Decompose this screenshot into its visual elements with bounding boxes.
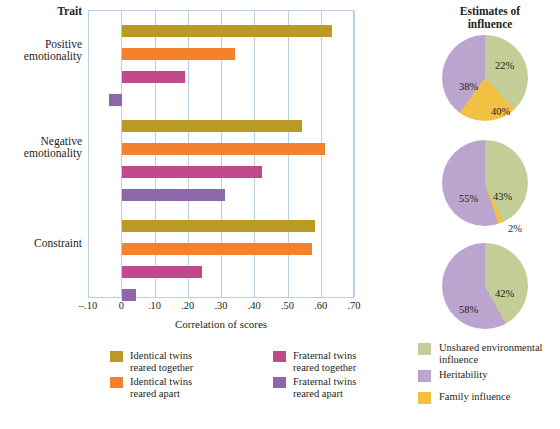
pie-slice-label: 2% xyxy=(508,223,522,234)
trait-label: Negativeemotionality xyxy=(0,135,82,159)
x-axis-title: Correlation of scores xyxy=(88,318,354,330)
pie-slice-label: 42% xyxy=(495,288,514,299)
pie-slice-label: 22% xyxy=(495,60,514,71)
pie-slice-label: 58% xyxy=(459,304,478,315)
trait-label: Constraint xyxy=(0,237,82,249)
legend-label-line2: reared apart xyxy=(293,388,356,400)
bar xyxy=(109,94,122,106)
legend-label-line1: Fraternal twins xyxy=(293,376,356,388)
pie-panel: Estimates of influence 38%22%40%43%2%55%… xyxy=(420,0,560,340)
pie-slice-label: 55% xyxy=(459,193,478,204)
legend-swatch-icon xyxy=(273,377,286,388)
bar-chart: Trait PositiveemotionalityNegativeemotio… xyxy=(0,0,400,340)
bar xyxy=(122,243,312,255)
bar-legend-label: Identical twinsreared apart xyxy=(130,376,192,399)
pie-chart xyxy=(442,243,528,329)
trait-column-header: Trait xyxy=(0,5,82,17)
bar-legend-label: Fraternal twinsreared together xyxy=(293,350,356,373)
pie-title-line1: Estimates of xyxy=(420,5,560,18)
legend-swatch-icon xyxy=(110,377,123,388)
legend-label-line2: influence xyxy=(439,354,543,366)
pie-slice-label: 38% xyxy=(459,81,478,92)
legend-swatch-icon xyxy=(273,351,286,362)
legend-swatch-icon xyxy=(418,343,431,355)
legend-label-line2: reared apart xyxy=(130,388,192,400)
x-tick-label: .70 xyxy=(334,300,374,311)
bar xyxy=(122,48,235,60)
figure-root: Trait PositiveemotionalityNegativeemotio… xyxy=(0,0,560,429)
bar xyxy=(122,166,262,178)
bar xyxy=(122,71,185,83)
legend-label-line1: Family influence xyxy=(439,391,510,403)
legend-label-line1: Unshared environmental xyxy=(439,342,543,354)
legend-label-line1: Identical twins xyxy=(130,350,193,362)
bar-legend-label: Fraternal twinsreared apart xyxy=(293,376,356,399)
pie-legend-item: Family influence xyxy=(418,391,510,404)
trait-label-line2: emotionality xyxy=(0,50,82,62)
legend-swatch-icon xyxy=(110,351,123,362)
pie-legend-label: Family influence xyxy=(439,391,510,403)
pie-legend-item: Unshared environmentalinfluence xyxy=(418,342,543,365)
trait-label-line1: Positive xyxy=(0,38,82,50)
bar xyxy=(122,25,331,37)
bar-legend-item: Fraternal twinsreared together xyxy=(273,350,356,373)
plot-area xyxy=(88,10,354,298)
bar xyxy=(122,220,315,232)
bar xyxy=(122,120,302,132)
legend-label-line1: Fraternal twins xyxy=(293,350,356,362)
pie-chart xyxy=(442,140,528,226)
pie-legend-label: Unshared environmentalinfluence xyxy=(439,342,543,365)
legend-swatch-icon xyxy=(418,370,431,382)
legend-label-line2: reared together xyxy=(293,362,356,374)
trait-label-line1: Negative xyxy=(0,135,82,147)
pie-chart xyxy=(442,35,528,121)
bar xyxy=(122,189,225,201)
bar-legend-item: Identical twinsreared apart xyxy=(110,376,192,399)
pie-panel-title: Estimates of influence xyxy=(420,5,560,31)
bar-legend-item: Fraternal twinsreared apart xyxy=(273,376,356,399)
bar-legend-label: Identical twinsreared together xyxy=(130,350,193,373)
bar xyxy=(122,266,202,278)
pie-slice-label: 43% xyxy=(493,191,512,202)
legend-swatch-icon xyxy=(418,392,431,404)
bar-legend-item: Identical twinsreared together xyxy=(110,350,193,373)
legend-label-line1: Heritability xyxy=(439,369,487,381)
trait-label: Positiveemotionality xyxy=(0,38,82,62)
gridline xyxy=(354,11,355,297)
pie-legend-label: Heritability xyxy=(439,369,487,381)
legend-label-line1: Identical twins xyxy=(130,376,192,388)
legend-label-line2: reared together xyxy=(130,362,193,374)
pie-slice-label: 40% xyxy=(491,106,510,117)
pie-title-line2: influence xyxy=(420,18,560,31)
pie-legend-item: Heritability xyxy=(418,369,487,382)
bar xyxy=(122,143,325,155)
trait-label-line2: emotionality xyxy=(0,147,82,159)
trait-label-line1: Constraint xyxy=(0,237,82,249)
